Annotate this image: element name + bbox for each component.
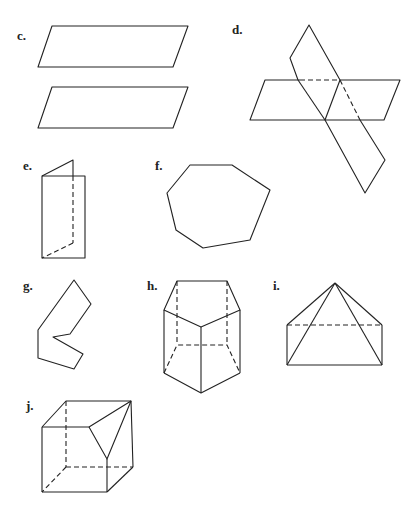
geometry-figures xyxy=(0,0,409,513)
figure-i-pyramid-prism xyxy=(287,283,382,365)
figure-f-heptagon xyxy=(167,165,270,248)
figure-c-parallel-planes xyxy=(38,26,188,128)
figure-j-truncated-cube xyxy=(42,401,133,492)
figure-h-pentagonal-prism xyxy=(164,281,240,393)
figure-d-intersecting-planes xyxy=(250,25,400,193)
figure-g-concave-polygon xyxy=(38,280,91,369)
figure-e-dihedral xyxy=(42,160,85,258)
